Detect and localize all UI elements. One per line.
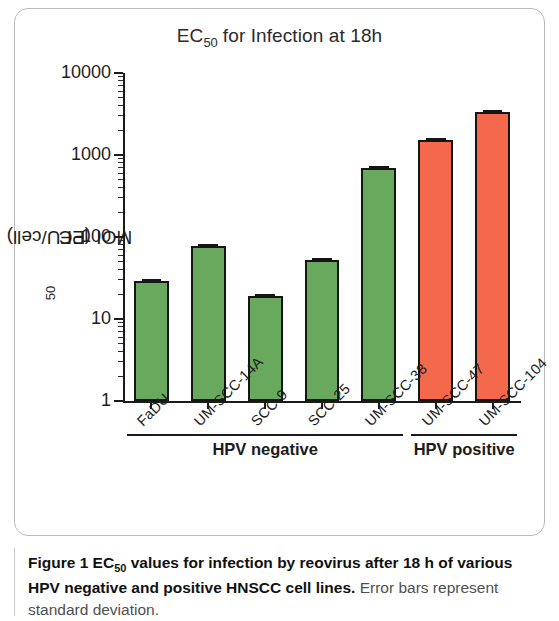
- error-bar: [426, 138, 446, 142]
- y-axis-tick-minor: [118, 130, 123, 131]
- y-axis-tick-minor: [118, 376, 123, 377]
- y-axis-tick-label: 10000: [61, 62, 111, 83]
- figure-panel: EC50 for Infection at 18h EC 50 MOI (PFU…: [14, 8, 545, 536]
- figure-caption: Figure 1 EC50 values for infection by re…: [28, 552, 534, 621]
- bar-slot[interactable]: [191, 246, 226, 401]
- group-bracket: HPV positive: [411, 434, 517, 459]
- y-axis-tick-minor: [118, 361, 123, 362]
- y-axis-tick-minor: [118, 331, 123, 332]
- y-axis-tick-minor: [118, 76, 123, 77]
- error-bar: [483, 110, 503, 114]
- y-axis-tick-minor: [118, 343, 123, 344]
- bar-slot[interactable]: [305, 260, 340, 401]
- y-axis-tick-major: [114, 318, 123, 320]
- y-axis-tick-minor: [118, 162, 123, 163]
- y-axis-tick-minor: [118, 255, 123, 256]
- y-axis-tick-minor: [118, 269, 123, 270]
- bar-slot[interactable]: [134, 281, 169, 401]
- caption-bold-subscript: 50: [114, 562, 126, 574]
- bar-um-scc-104[interactable]: [475, 112, 510, 401]
- group-rule: [127, 434, 403, 436]
- bar-slot[interactable]: [248, 296, 283, 401]
- chart-title: EC50 for Infection at 18h: [15, 25, 544, 50]
- bar-um-scc-14a[interactable]: [191, 246, 226, 401]
- y-axis-tick-major: [114, 72, 123, 74]
- y-axis-tick-minor: [118, 212, 123, 213]
- y-axis-tick-label: 1000: [71, 144, 111, 165]
- y-axis-tick-minor: [118, 294, 123, 295]
- caption-bold-prefix: EC: [93, 554, 115, 571]
- bar-slot[interactable]: [418, 140, 453, 401]
- chart-title-suffix: for Infection at 18h: [217, 25, 382, 46]
- error-bar: [369, 166, 389, 170]
- group-label: HPV positive: [411, 440, 517, 459]
- y-axis-tick-minor: [118, 85, 123, 86]
- y-axis-tick-label: 100: [81, 226, 111, 247]
- bar-fadu[interactable]: [134, 281, 169, 401]
- error-bar: [198, 244, 218, 248]
- bar-slot[interactable]: [475, 112, 510, 401]
- group-bracket: HPV negative: [127, 434, 403, 459]
- y-axis-tick-minor: [118, 351, 123, 352]
- y-axis-tick-minor: [118, 167, 123, 168]
- y-axis-tick-label: 10: [91, 308, 111, 329]
- bar-um-scc-47[interactable]: [418, 140, 453, 401]
- group-label: HPV negative: [127, 440, 403, 459]
- bar-um-scc-38[interactable]: [361, 168, 396, 401]
- y-axis-tick-minor: [118, 179, 123, 180]
- bar-slot[interactable]: [361, 168, 396, 401]
- caption-figure-label: Figure 1: [28, 554, 88, 571]
- y-axis-tick-minor: [118, 197, 123, 198]
- y-axis-tick-minor: [118, 279, 123, 280]
- chart-title-prefix: EC: [177, 25, 204, 46]
- y-axis-tick-minor: [118, 80, 123, 81]
- y-axis-tick-minor: [118, 249, 123, 250]
- error-bar: [255, 294, 275, 298]
- plot-area: 100001000100101: [123, 73, 521, 401]
- y-axis-title: EC 50 MOI (PFU/cell): [33, 73, 59, 401]
- y-axis-tick-major: [114, 154, 123, 156]
- y-axis-tick-minor: [118, 173, 123, 174]
- y-axis-tick-label: 1: [101, 390, 111, 411]
- caption-divider: [14, 548, 15, 616]
- y-axis-tick-minor: [118, 322, 123, 323]
- y-axis-tick-minor: [118, 105, 123, 106]
- y-axis-tick-major: [114, 236, 123, 238]
- error-bar: [142, 279, 162, 283]
- chart-title-subscript: 50: [203, 35, 217, 50]
- bar-scc-25[interactable]: [305, 260, 340, 401]
- y-axis-line: [123, 73, 125, 401]
- group-rule: [411, 434, 517, 436]
- y-axis-tick-minor: [118, 91, 123, 92]
- y-axis-tick-minor: [118, 240, 123, 241]
- error-bar: [312, 258, 332, 262]
- bar-scc-9[interactable]: [248, 296, 283, 401]
- y-axis-tick-minor: [118, 261, 123, 262]
- y-axis-title-subscript: 50: [43, 285, 58, 299]
- y-axis-tick-minor: [118, 158, 123, 159]
- y-axis-tick-minor: [118, 326, 123, 327]
- y-axis-tick-minor: [118, 337, 123, 338]
- y-axis-tick-minor: [118, 244, 123, 245]
- y-axis-tick-minor: [118, 115, 123, 116]
- y-axis-tick-minor: [118, 187, 123, 188]
- y-axis-tick-major: [114, 400, 123, 402]
- y-axis-tick-minor: [118, 97, 123, 98]
